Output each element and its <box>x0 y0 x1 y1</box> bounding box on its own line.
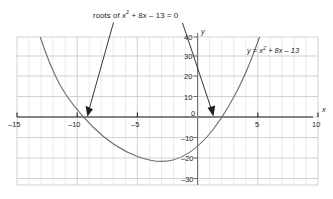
x-tick-label-10: 10 <box>312 121 320 129</box>
y-tick-label--20: –20 <box>181 155 194 163</box>
x-tick-label--15: –15 <box>8 121 21 129</box>
roots-annotation-label: roots of x2 + 8x – 13 = 0 <box>93 12 178 20</box>
series-equation-label: y = x2 + 8x – 13 <box>247 47 299 55</box>
origin-marker <box>196 116 199 119</box>
y-tick-label--10: –10 <box>181 135 194 143</box>
roots-annotation-prefix: roots of <box>93 11 122 20</box>
y-tick-label-40: 40 <box>184 34 192 42</box>
x-tick-label-5: 5 <box>255 121 259 129</box>
y-tick-label-20: 20 <box>184 73 192 81</box>
x-axis-label: x <box>322 106 326 114</box>
plot-background <box>17 37 318 185</box>
y-axis-label: y <box>201 28 205 36</box>
equation-prefix: y = x <box>247 46 263 55</box>
y-tick-label-10: 10 <box>184 94 192 102</box>
x-tick-label--5: –5 <box>131 121 139 129</box>
y-tick-label-0: 0 <box>191 110 195 118</box>
x-tick-label--10: –10 <box>68 121 81 129</box>
graph-figure: roots of x2 + 8x – 13 = 0 y = x2 + 8x – … <box>0 0 333 199</box>
y-tick-label--30: –30 <box>181 176 194 184</box>
equation-rest: + 8x – 13 <box>266 46 299 55</box>
y-tick-label-30: 30 <box>184 53 192 61</box>
plot-canvas <box>0 0 333 199</box>
roots-annotation-rest: + 8x – 13 = 0 <box>129 11 178 20</box>
